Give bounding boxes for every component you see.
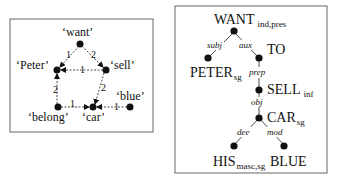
node-label-peter: ‘Peter’: [16, 58, 49, 72]
edge-label-aux: aux: [239, 40, 252, 50]
node-label-want: ‘want’: [62, 25, 93, 39]
node-sell: [103, 67, 110, 74]
node-to: [255, 54, 262, 61]
node-want: [77, 41, 84, 48]
node-label-sell: ‘sell’: [110, 58, 135, 72]
node-label-blue: BLUE: [270, 154, 307, 169]
semantic-graph-panel: 1 2 1 2 2 1 1 ‘want’ ‘Peter’ ‘sell’ ‘bel…: [10, 19, 153, 132]
edge-label-dee: dee: [237, 127, 250, 137]
word: SELL: [267, 82, 300, 97]
node-his: [230, 142, 237, 149]
subscript: inf: [303, 89, 313, 99]
node-label-belong: ‘belong’: [28, 110, 69, 124]
node-label-car: CARsg: [267, 110, 305, 127]
edge-label-obj: obj: [251, 97, 263, 107]
subscript: ind,pres: [257, 19, 286, 29]
subscript: sg: [297, 117, 306, 127]
edge-label: 2: [53, 84, 58, 95]
node-label-car: ‘car’: [82, 110, 105, 124]
syntactic-tree-panel: subj aux prep obj dee mod WANTind,pres P…: [175, 6, 327, 173]
node-blue: [280, 142, 287, 149]
edge-label: 1: [66, 49, 71, 60]
edge-label: 1: [70, 98, 75, 109]
diagram-canvas: 1 2 1 2 2 1 1 ‘want’ ‘Peter’ ‘sell’ ‘bel…: [0, 0, 343, 182]
word: PETER: [190, 65, 233, 80]
edge-label-prep: prep: [248, 67, 266, 77]
edge-label: 2: [101, 82, 106, 93]
subscript: masc,sg: [237, 161, 266, 171]
node-label-blue: ‘blue’: [116, 89, 145, 103]
word: HIS: [213, 154, 236, 169]
edge-label: 2: [91, 49, 96, 60]
edge-label-mod: mod: [267, 127, 283, 137]
node-sell: [255, 86, 262, 93]
node-label-sell: SELLinf: [267, 82, 313, 99]
node-car: [255, 114, 262, 121]
node-peter: [54, 67, 61, 74]
node-label-peter: PETERsg: [190, 65, 242, 82]
word: CAR: [267, 110, 296, 125]
edge-label: 1: [80, 64, 85, 75]
subscript: sg: [234, 72, 243, 82]
node-label-want: WANTind,pres: [214, 12, 287, 29]
node-label-his: HISmasc,sg: [213, 154, 266, 171]
node-label-to: TO: [267, 42, 285, 57]
node-want: [230, 27, 237, 34]
edge-label-subj: subj: [207, 40, 223, 50]
word: WANT: [214, 12, 255, 27]
node-blue: [127, 104, 134, 111]
node-peter: [204, 54, 211, 61]
syntactic-node-labels: WANTind,pres PETERsg TO SELLinf CARsg HI…: [190, 12, 313, 171]
